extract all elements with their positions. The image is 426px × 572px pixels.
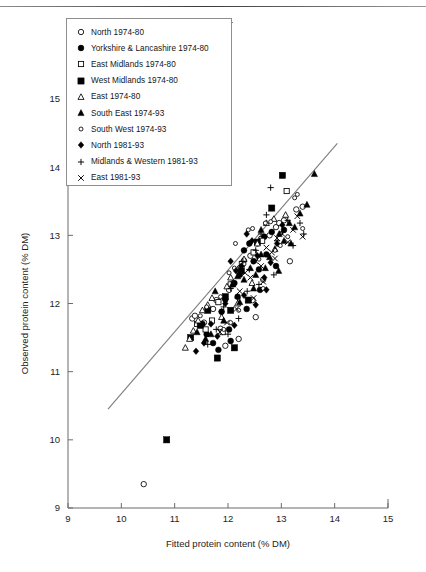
- data-point-cross: [300, 234, 306, 240]
- data-point-filled-diamond: [215, 333, 221, 340]
- data-point-open-triangle: [249, 280, 255, 286]
- data-point-filled-diamond: [193, 348, 199, 355]
- y-tick-label: 9: [55, 502, 60, 513]
- data-point-cross: [78, 175, 84, 181]
- y-tick-label: 15: [49, 93, 60, 104]
- legend-item-label: Yorkshire & Lancashire 1974-80: [91, 44, 209, 53]
- legend-item-label: East 1981-93: [91, 173, 140, 182]
- data-point-small-open-circle: [79, 127, 83, 131]
- x-axis-title: Fitted protein content (% DM): [166, 538, 290, 549]
- series-filled-square: [164, 172, 286, 443]
- legend-item[interactable]: Yorkshire & Lancashire 1974-80: [67, 40, 231, 56]
- data-point-small-open-circle: [295, 192, 299, 196]
- legend-item-label: West Midlands 1974-80: [91, 76, 178, 85]
- data-point-small-open-circle: [198, 314, 202, 318]
- data-point-filled-triangle: [212, 288, 218, 294]
- data-point-small-open-circle: [251, 227, 255, 231]
- data-point-filled-circle: [228, 338, 234, 344]
- data-point-filled-circle: [210, 340, 216, 346]
- x-tick-label: 9: [65, 513, 70, 524]
- data-point-filled-circle: [226, 327, 232, 333]
- data-point-filled-square: [228, 307, 234, 313]
- filled-square-icon: [74, 73, 91, 89]
- legend-item[interactable]: East Midlands 1974-80: [67, 56, 231, 72]
- data-point-open-circle: [210, 306, 215, 311]
- data-point-filled-square: [214, 355, 220, 361]
- data-point-open-square: [284, 188, 289, 193]
- legend-item[interactable]: South West 1974-93: [67, 121, 231, 137]
- filled-circle-icon: [74, 40, 91, 56]
- y-axis-title: Observed protein content (% DM): [19, 233, 30, 375]
- data-point-open-square: [78, 62, 83, 67]
- data-point-open-circle: [236, 336, 241, 341]
- data-point-filled-circle: [241, 247, 247, 253]
- legend-item[interactable]: Midlands & Western 1981-93: [67, 154, 231, 170]
- data-point-plus: [297, 220, 303, 226]
- legend-item-label: Midlands & Western 1981-93: [91, 157, 198, 166]
- open-triangle-icon: [74, 89, 91, 105]
- open-square-icon: [74, 56, 91, 72]
- data-point-filled-circle: [216, 347, 222, 353]
- legend-item[interactable]: West Midlands 1974-80: [67, 73, 231, 89]
- data-point-small-open-circle: [205, 305, 209, 309]
- scatter-plot-figure: 91011121314159101112131415Fitted protein…: [0, 0, 426, 572]
- data-points-layer: [141, 171, 317, 487]
- data-point-filled-triangle: [78, 110, 84, 116]
- filled-triangle-icon: [74, 105, 91, 121]
- data-point-filled-diamond: [78, 142, 84, 149]
- data-point-open-triangle: [228, 274, 234, 280]
- data-point-filled-circle: [273, 263, 279, 269]
- data-point-filled-circle: [256, 267, 262, 273]
- x-tick-label: 11: [170, 513, 180, 524]
- data-point-filled-circle: [269, 229, 275, 235]
- data-point-filled-circle: [78, 45, 84, 51]
- data-point-plus: [268, 185, 274, 191]
- legend-item-label: North 1981-93: [91, 141, 144, 150]
- legend-item-label: East 1974-80: [91, 92, 140, 101]
- data-point-open-circle: [223, 343, 228, 348]
- data-point-filled-triangle: [251, 285, 257, 291]
- data-point-open-triangle: [182, 345, 188, 351]
- data-point-open-square: [216, 300, 221, 305]
- open-circle-icon: [74, 24, 91, 40]
- legend-item[interactable]: North 1974-80: [67, 24, 231, 40]
- data-point-plus: [78, 158, 84, 164]
- cross-icon: [74, 170, 91, 186]
- data-point-filled-square: [222, 294, 228, 300]
- x-tick-label: 10: [116, 513, 127, 524]
- data-point-filled-square: [279, 172, 285, 178]
- data-point-small-open-circle: [269, 220, 273, 224]
- data-point-cross: [272, 256, 278, 262]
- data-point-filled-square: [78, 78, 84, 84]
- y-tick-label: 14: [49, 162, 60, 173]
- data-point-open-circle: [78, 29, 83, 34]
- data-point-open-circle: [294, 207, 299, 212]
- legend-item-label: East Midlands 1974-80: [91, 60, 176, 69]
- data-point-small-open-circle: [263, 221, 267, 225]
- data-point-open-circle: [253, 314, 258, 319]
- x-tick-label: 13: [276, 513, 287, 524]
- data-point-filled-square: [269, 205, 275, 211]
- legend-item-label: South West 1974-93: [91, 125, 166, 134]
- y-tick-label: 12: [49, 298, 60, 309]
- legend-item[interactable]: North 1981-93: [67, 137, 231, 153]
- filled-diamond-icon: [74, 137, 91, 153]
- data-point-filled-diamond: [228, 258, 234, 265]
- data-point-open-triangle: [283, 212, 289, 218]
- x-tick-label: 15: [383, 513, 394, 524]
- data-point-small-open-circle: [301, 227, 305, 231]
- data-point-open-triangle: [209, 295, 215, 301]
- legend-item[interactable]: South East 1974-93: [67, 105, 231, 121]
- y-tick-label: 13: [49, 230, 60, 241]
- legend: North 1974-80Yorkshire & Lancashire 1974…: [66, 18, 232, 186]
- data-point-small-open-circle: [286, 235, 290, 239]
- data-point-filled-square: [164, 437, 170, 443]
- series-plus: [205, 185, 307, 348]
- y-tick-label: 10: [49, 434, 60, 445]
- x-tick-label: 14: [329, 513, 340, 524]
- legend-item[interactable]: East 1981-93: [67, 170, 231, 186]
- small-open-circle-icon: [74, 121, 91, 137]
- legend-item[interactable]: East 1974-80: [67, 89, 231, 105]
- data-point-open-circle: [141, 481, 146, 486]
- data-point-small-open-circle: [229, 321, 233, 325]
